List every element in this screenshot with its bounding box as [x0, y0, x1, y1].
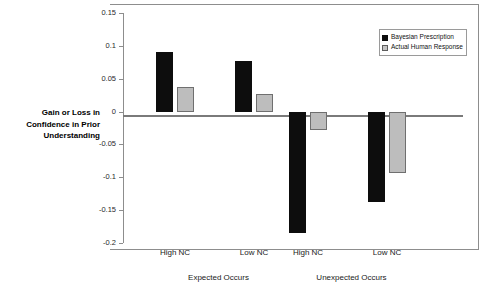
y-tick-label: -0.1 [103, 174, 116, 182]
y-tick-label: 0.05 [101, 75, 116, 83]
category-label: High NC [160, 249, 190, 257]
y-axis-line [123, 13, 124, 243]
chart-figure: Gain or Loss in Confidence in Prior Unde… [0, 0, 479, 286]
legend-item: Actual Human Response [382, 43, 463, 52]
group-label: Unexpected Occurs [316, 274, 386, 282]
category-label: High NC [293, 249, 323, 257]
legend-label: Bayesian Prescription [391, 34, 454, 41]
group-label: Expected Occurs [188, 274, 249, 282]
bar-bayesian [156, 52, 173, 111]
y-tick-mark [119, 177, 123, 178]
bar-bayesian [368, 112, 385, 202]
y-tick-mark [119, 79, 123, 80]
figure-border-top [110, 4, 479, 5]
y-tick-label: -0.2 [103, 239, 116, 247]
legend-item: Bayesian Prescription [382, 33, 463, 42]
y-tick-label: -0.15 [99, 206, 116, 214]
legend-swatch-icon [382, 35, 388, 41]
y-tick-label: 0.15 [101, 9, 116, 17]
bar-human [256, 94, 273, 112]
bar-human [177, 87, 194, 112]
y-tick-label: 0.1 [106, 42, 116, 50]
legend-label: Actual Human Response [391, 44, 463, 51]
y-tick-mark [119, 210, 123, 211]
bar-human [310, 112, 327, 130]
bar-human [389, 112, 406, 173]
legend-swatch-icon [382, 45, 388, 51]
y-tick-label: 0 [112, 108, 116, 116]
bar-bayesian [235, 61, 252, 112]
bar-bayesian [289, 112, 306, 234]
chart-legend: Bayesian PrescriptionActual Human Respon… [379, 29, 467, 56]
category-label: Low NC [240, 249, 268, 257]
y-tick-mark [119, 46, 123, 47]
y-tick-label: -0.05 [99, 141, 116, 149]
y-tick-mark [119, 13, 123, 14]
category-label: Low NC [373, 249, 401, 257]
y-tick-mark [119, 144, 123, 145]
y-axis-title: Gain or Loss in Confidence in Prior Unde… [6, 107, 100, 142]
y-tick-mark [119, 243, 123, 244]
y-tick-mark [119, 112, 123, 113]
